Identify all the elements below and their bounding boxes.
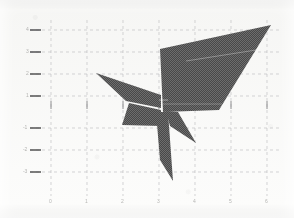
plot-frame xyxy=(0,0,294,218)
left-upper-wing xyxy=(96,73,161,108)
y-tick-label-4: 4 xyxy=(26,26,29,32)
x-tick-label-3: 3 xyxy=(157,198,160,204)
y-tick-label-neg2: -2 xyxy=(23,146,27,152)
y-tick-label-neg1: -1 xyxy=(23,124,27,130)
x-tick-label-5: 5 xyxy=(229,198,232,204)
plot-canvas xyxy=(0,0,294,218)
shaded-region-main xyxy=(160,25,271,112)
x-tick-label-1: 1 xyxy=(85,198,88,204)
y-tick-label-neg3: -3 xyxy=(23,168,27,174)
x-tick-label-2: 2 xyxy=(121,198,124,204)
right-spike xyxy=(166,111,196,143)
shaded-region-group xyxy=(96,25,271,181)
x-tick-label-6: 6 xyxy=(265,198,268,204)
plot-page: 4 3 2 1 -1 -2 -3 0 1 2 3 4 5 6 xyxy=(0,0,294,218)
y-tick-label-3: 3 xyxy=(26,48,29,54)
x-tick-label-4: 4 xyxy=(193,198,196,204)
y-tick-label-1: 1 xyxy=(26,92,29,98)
x-tick-label-0: 0 xyxy=(49,198,52,204)
y-tick-label-2: 2 xyxy=(26,70,29,76)
